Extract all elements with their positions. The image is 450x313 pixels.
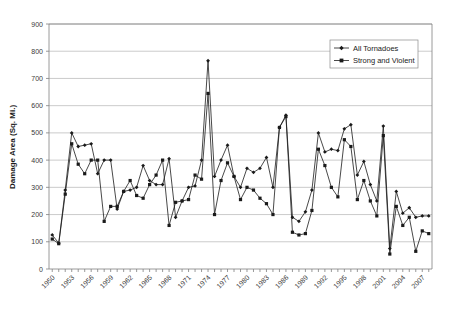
data-point-marker bbox=[258, 166, 262, 170]
legend-item-label: All Tornadoes bbox=[353, 44, 399, 53]
data-point-marker bbox=[381, 124, 385, 128]
data-point-marker bbox=[297, 233, 300, 236]
data-point-marker bbox=[187, 185, 191, 189]
data-point-marker bbox=[141, 164, 145, 168]
y-tick-label: 300 bbox=[31, 184, 43, 191]
data-point-marker bbox=[395, 205, 398, 208]
data-point-marker bbox=[252, 188, 255, 191]
series-line bbox=[52, 93, 429, 254]
data-point-marker bbox=[187, 198, 190, 201]
data-point-marker bbox=[96, 159, 99, 162]
data-point-marker bbox=[317, 148, 320, 151]
data-point-marker bbox=[219, 158, 223, 162]
data-point-marker bbox=[265, 202, 268, 205]
data-point-marker bbox=[76, 145, 80, 149]
x-tick-label: 1965 bbox=[137, 274, 153, 290]
data-point-marker bbox=[375, 214, 378, 217]
data-point-marker bbox=[362, 179, 365, 182]
data-point-marker bbox=[388, 252, 391, 255]
data-point-marker bbox=[135, 185, 139, 189]
data-point-marker bbox=[89, 142, 93, 146]
chart-legend: All TornadoesStrong and Violent bbox=[330, 40, 418, 68]
data-point-marker bbox=[200, 178, 203, 181]
data-point-marker bbox=[161, 159, 164, 162]
data-point-marker bbox=[284, 115, 287, 118]
data-point-marker bbox=[427, 232, 430, 235]
x-tick-label: 1998 bbox=[352, 274, 368, 290]
series-line bbox=[52, 61, 429, 249]
x-tick-label: 1950 bbox=[40, 274, 56, 290]
data-point-marker bbox=[271, 185, 275, 189]
tornado-damage-area-chart: 0100200300400500600700800900 19501953195… bbox=[0, 0, 450, 313]
data-point-marker bbox=[343, 138, 346, 141]
y-tick-label: 400 bbox=[31, 157, 43, 164]
x-tick-label: 1953 bbox=[59, 274, 75, 290]
data-point-marker bbox=[206, 92, 209, 95]
data-point-marker bbox=[368, 183, 372, 187]
data-point-marker bbox=[232, 175, 235, 178]
y-tick-label: 200 bbox=[31, 211, 43, 218]
y-axis-title: Damage Area (Sq. Mi.) bbox=[8, 105, 17, 190]
x-tick-label: 1992 bbox=[313, 274, 329, 290]
data-point-marker bbox=[167, 224, 170, 227]
x-tick-label: 1986 bbox=[274, 274, 290, 290]
x-tick-label: 2001 bbox=[371, 274, 387, 290]
data-point-marker bbox=[316, 131, 320, 135]
x-tick-label: 1995 bbox=[332, 274, 348, 290]
x-tick-label: 1977 bbox=[215, 274, 231, 290]
data-point-marker bbox=[102, 158, 106, 162]
data-point-marker bbox=[265, 155, 269, 159]
data-point-marker bbox=[382, 134, 385, 137]
y-tick-label: 700 bbox=[31, 75, 43, 82]
x-tick-label: 1968 bbox=[157, 274, 173, 290]
data-point-marker bbox=[109, 158, 113, 162]
data-point-marker bbox=[70, 142, 73, 145]
data-point-marker bbox=[349, 145, 352, 148]
y-tick-label: 100 bbox=[31, 238, 43, 245]
x-axis-ticks bbox=[52, 269, 429, 272]
data-point-marker bbox=[155, 173, 158, 176]
data-point-marker bbox=[342, 127, 346, 131]
x-tick-label: 2004 bbox=[391, 274, 407, 290]
series-1 bbox=[50, 59, 430, 251]
data-point-marker bbox=[401, 224, 404, 227]
data-point-marker bbox=[271, 213, 274, 216]
data-point-marker bbox=[245, 186, 248, 189]
data-point-marker bbox=[148, 179, 152, 183]
legend-item-label: Strong and Violent bbox=[353, 56, 415, 65]
data-point-marker bbox=[394, 190, 398, 194]
y-tick-label: 900 bbox=[31, 21, 43, 28]
y-tick-label: 0 bbox=[39, 266, 43, 273]
data-point-marker bbox=[116, 205, 119, 208]
x-tick-label: 2007 bbox=[410, 274, 426, 290]
data-point-marker bbox=[77, 163, 80, 166]
data-point-marker bbox=[310, 209, 313, 212]
y-axis-ticks: 0100200300400500600700800900 bbox=[31, 21, 49, 273]
data-point-marker bbox=[310, 188, 314, 192]
data-point-marker bbox=[245, 166, 249, 170]
data-point-marker bbox=[109, 205, 112, 208]
data-point-marker bbox=[154, 183, 158, 187]
data-point-marker bbox=[122, 190, 125, 193]
data-point-marker bbox=[336, 149, 340, 153]
data-point-marker bbox=[57, 242, 60, 245]
y-tick-label: 600 bbox=[31, 102, 43, 109]
data-point-marker bbox=[103, 220, 106, 223]
data-point-marker bbox=[129, 179, 132, 182]
data-point-marker bbox=[180, 199, 183, 202]
series-2 bbox=[51, 92, 431, 256]
data-point-marker bbox=[135, 194, 138, 197]
x-tick-label: 1971 bbox=[176, 274, 192, 290]
x-axis-tick-labels: 1950195319561959196219651968197119741977… bbox=[40, 274, 426, 290]
chart-canvas: 0100200300400500600700800900 19501953195… bbox=[0, 0, 450, 313]
data-point-marker bbox=[83, 172, 86, 175]
data-point-marker bbox=[64, 193, 67, 196]
data-point-marker bbox=[239, 185, 243, 189]
data-point-marker bbox=[252, 170, 256, 174]
y-axis-title-label: Damage Area (Sq. Mi.) bbox=[8, 105, 17, 190]
data-point-marker bbox=[90, 159, 93, 162]
x-tick-label: 1974 bbox=[196, 274, 212, 290]
data-point-marker bbox=[258, 197, 261, 200]
data-point-marker bbox=[83, 143, 87, 147]
data-point-marker bbox=[330, 186, 333, 189]
